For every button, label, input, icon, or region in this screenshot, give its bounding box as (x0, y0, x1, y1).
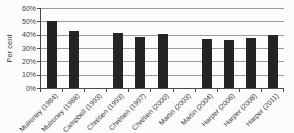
bar (202, 39, 212, 88)
bar (69, 31, 79, 88)
gridline (41, 8, 284, 9)
y-tick-label: 10% (12, 71, 36, 78)
bar (47, 21, 57, 88)
y-tick-mark (37, 35, 40, 36)
x-tick-mark (106, 89, 107, 92)
x-tick-mark (40, 89, 41, 92)
y-tick-label: 30% (12, 45, 36, 52)
y-tick-mark (37, 21, 40, 22)
bar (158, 34, 168, 88)
bar (246, 38, 256, 88)
bar (224, 40, 234, 88)
x-tick-mark (261, 89, 262, 92)
x-tick-mark (173, 89, 174, 92)
gridline (41, 21, 284, 22)
y-tick-label: 50% (12, 18, 36, 25)
bar-chart-figure: Per cent 0%10%20%30%40%50%60% Mulroney (… (0, 0, 294, 133)
x-tick-mark (283, 89, 284, 92)
y-tick-mark (37, 8, 40, 9)
x-tick-mark (239, 89, 240, 92)
x-tick-mark (150, 89, 151, 92)
x-tick-mark (62, 89, 63, 92)
x-tick-mark (217, 89, 218, 92)
bar (113, 33, 123, 88)
y-tick-label: 20% (12, 58, 36, 65)
y-tick-mark (37, 48, 40, 49)
y-tick-label: 40% (12, 31, 36, 38)
plot-area (40, 8, 284, 89)
y-tick-mark (37, 75, 40, 76)
x-tick-mark (84, 89, 85, 92)
bar (135, 37, 145, 88)
y-tick-label: 0% (12, 85, 36, 92)
x-tick-mark (195, 89, 196, 92)
bar (268, 35, 278, 88)
x-tick-mark (128, 89, 129, 92)
y-tick-mark (37, 61, 40, 62)
y-tick-label: 60% (12, 5, 36, 12)
